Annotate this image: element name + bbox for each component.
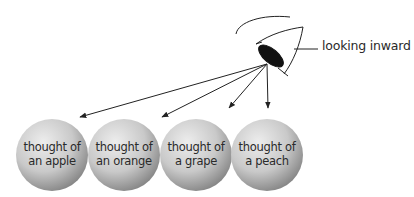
upper-eyelid	[256, 27, 303, 44]
sphere-label-orange: thought of an orange	[84, 140, 164, 168]
gaze-arrows	[80, 64, 268, 117]
lower-eyelid	[284, 27, 303, 74]
sphere-label-apple: thought of an apple	[12, 140, 92, 168]
sphere-label-peach: thought of a peach	[227, 140, 307, 168]
arrow-to-apple	[80, 64, 267, 117]
arrow-to-grape	[229, 64, 267, 108]
eye-icon	[236, 16, 303, 76]
sphere-label-grape: thought of a grape	[156, 140, 236, 168]
arrow-to-peach	[267, 64, 268, 108]
looking-inward-label: looking inward	[322, 38, 411, 53]
arrow-to-orange	[162, 64, 267, 117]
